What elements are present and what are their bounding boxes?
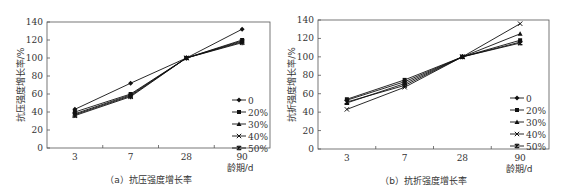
x-tick-label: 3 — [72, 152, 78, 162]
legend-label: 30% — [526, 118, 546, 128]
chart-caption: （a）抗压强度增长率 — [105, 174, 192, 185]
y-tick-label: 100 — [26, 53, 43, 63]
y-tick-label: 140 — [26, 17, 43, 27]
chart-caption: （b）抗折强度增长率 — [380, 175, 467, 186]
legend-item: 20% — [232, 108, 268, 118]
legend: 020%30%40%50% — [232, 96, 268, 154]
diamond-marker-icon — [237, 98, 242, 103]
series-line — [347, 24, 520, 110]
legend-label: 40% — [248, 132, 268, 142]
x-marker-icon — [345, 107, 349, 111]
legend-item: 30% — [510, 118, 546, 128]
series-line — [75, 43, 242, 116]
y-tick-label: 60 — [303, 89, 315, 99]
plot-frame — [318, 20, 549, 149]
y-tick-label: 100 — [297, 52, 314, 62]
legend: 020%30%40%50% — [510, 94, 546, 152]
y-axis-label: 抗压强度增长率/% — [15, 47, 26, 122]
y-tick-label: 120 — [26, 35, 43, 45]
x-tick-label: 7 — [128, 152, 134, 162]
plot-frame — [47, 22, 270, 148]
y-axis-label: 抗折强度增长率/% — [286, 47, 297, 122]
y-tick-label: 20 — [303, 126, 315, 136]
y-tick-label: 40 — [303, 107, 315, 117]
chart-flexural-strength-growth: 020406080100120140372890龄期/d抗折强度增长率/%（b）… — [281, 0, 562, 193]
triangle-marker-icon — [518, 31, 523, 36]
chart-compressive-strength-growth: 020406080100120140372890龄期/d抗压强度增长率/%（a）… — [0, 0, 281, 193]
square-marker-icon — [237, 110, 241, 114]
y-tick-label: 0 — [308, 144, 314, 154]
legend-label: 0 — [526, 94, 532, 104]
legend-label: 30% — [248, 120, 268, 130]
x-axis-label: 龄期/d — [506, 163, 533, 174]
y-tick-label: 80 — [303, 70, 315, 80]
legend-item: 0 — [232, 96, 254, 106]
diamond-marker-icon — [515, 96, 520, 101]
legend-item: 50% — [510, 142, 546, 152]
legend-item: 20% — [510, 106, 546, 116]
x-tick-label: 90 — [236, 152, 248, 162]
legend-item: 0 — [510, 94, 532, 104]
series-line — [75, 29, 242, 109]
series-0 — [72, 27, 244, 112]
diamond-marker-icon — [128, 81, 133, 86]
x-tick-label: 7 — [402, 153, 408, 163]
legend-label: 0 — [248, 96, 254, 106]
y-tick-label: 20 — [32, 125, 44, 135]
x-marker-icon — [518, 21, 522, 25]
diamond-marker-icon — [240, 27, 245, 32]
legend-item: 40% — [232, 132, 268, 142]
legend-label: 50% — [248, 144, 268, 154]
legend-item: 30% — [232, 120, 268, 130]
y-tick-label: 0 — [37, 143, 43, 153]
square-marker-icon — [515, 108, 519, 112]
y-tick-label: 140 — [297, 15, 314, 25]
y-tick-label: 80 — [32, 71, 44, 81]
x-tick-label: 90 — [514, 153, 526, 163]
legend-label: 20% — [248, 108, 268, 118]
y-tick-label: 60 — [32, 89, 44, 99]
series-40pct — [73, 40, 245, 117]
x-tick-label: 3 — [344, 153, 350, 163]
y-tick-label: 120 — [297, 33, 314, 43]
x-axis-label: 龄期/d — [227, 162, 254, 173]
x-tick-label: 28 — [181, 152, 193, 162]
legend-label: 50% — [526, 142, 546, 152]
series-40pct — [345, 21, 523, 111]
x-tick-label: 28 — [457, 153, 469, 163]
y-tick-label: 40 — [32, 107, 44, 117]
legend-label: 20% — [526, 106, 546, 116]
legend-label: 40% — [526, 130, 546, 140]
legend-item: 40% — [510, 130, 546, 140]
